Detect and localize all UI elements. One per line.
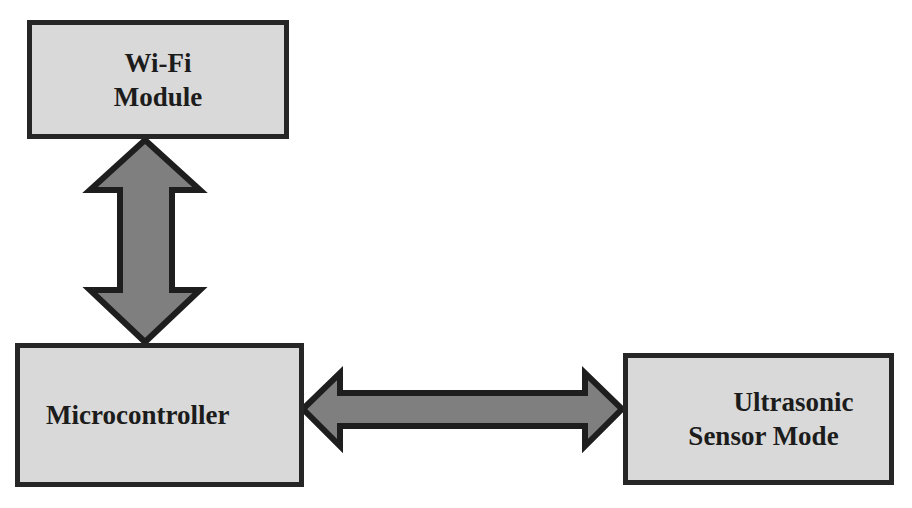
mcu-us-bidirectional-arrow <box>303 373 622 446</box>
ultrasonic-sensor-label-line-1: Ultrasonic <box>674 385 854 419</box>
wifi-module-label-line-1: Wi-Fi <box>114 46 203 80</box>
wifi-module-label: Wi-Fi Module <box>114 46 203 114</box>
microcontroller-block: Microcontroller <box>15 343 304 487</box>
microcontroller-label-line-1: Microcontroller <box>46 398 229 432</box>
ultrasonic-sensor-block: Ultrasonic Sensor Mode <box>623 353 894 485</box>
microcontroller-label: Microcontroller <box>46 398 229 432</box>
wifi-module-label-line-2: Module <box>114 80 203 114</box>
ultrasonic-sensor-label-line-2: Sensor Mode <box>674 419 854 453</box>
ultrasonic-sensor-label: Ultrasonic Sensor Mode <box>674 385 854 453</box>
wifi-mcu-bidirectional-arrow <box>90 140 200 342</box>
wifi-module-block: Wi-Fi Module <box>27 20 289 139</box>
